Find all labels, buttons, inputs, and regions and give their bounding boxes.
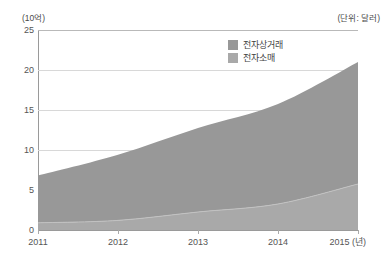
y-tick-label-20: 20 <box>8 66 34 75</box>
x-tick-label-2012: 2012 <box>108 238 128 247</box>
x-axis-tick-labels: 20112012201320142015 (년) <box>0 234 389 254</box>
area-chart: (10억) (단위: 달러) 2520151050 전자상거래 전자소매 201… <box>0 0 389 271</box>
x-tick-label-2011: 2011 <box>28 238 47 247</box>
x-tick-mark-2015 <box>358 230 359 234</box>
legend-item-eretail: 전자소매 <box>228 53 283 63</box>
y-tick-label-25: 25 <box>8 26 34 35</box>
legend-label-ecommerce: 전자상거래 <box>243 41 283 50</box>
x-tick-mark-2011 <box>38 230 39 234</box>
x-tick-mark-2012 <box>118 230 119 234</box>
x-tick-mark-2014 <box>278 230 279 234</box>
x-tick-label-2014: 2014 <box>268 238 288 247</box>
chart-unit-note: (단위: 달러) <box>338 14 380 23</box>
y-axis-unit-caption: (10억) <box>22 14 45 23</box>
legend-item-ecommerce: 전자상거래 <box>228 40 283 50</box>
plot-area <box>38 30 358 230</box>
x-tick-label-2013: 2013 <box>188 238 208 247</box>
series-plot <box>38 30 358 230</box>
legend-swatch-eretail <box>228 53 238 63</box>
x-tick-mark-2013 <box>198 230 199 234</box>
y-tick-label-15: 15 <box>8 106 34 115</box>
x-tick-label-2015: 2015 (년) <box>330 238 367 247</box>
y-tick-label-5: 5 <box>8 186 34 195</box>
chart-legend: 전자상거래 전자소매 <box>228 40 283 63</box>
y-tick-label-10: 10 <box>8 146 34 155</box>
legend-label-eretail: 전자소매 <box>243 54 275 63</box>
y-axis-tick-labels: 2520151050 <box>4 30 34 230</box>
legend-swatch-ecommerce <box>228 40 238 50</box>
